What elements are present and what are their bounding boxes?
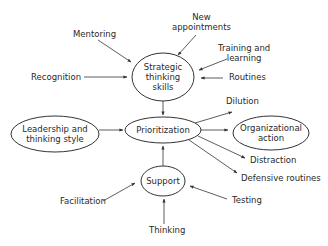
thinking-label: Thinking xyxy=(149,225,185,235)
organizational-line1: Organizational xyxy=(240,123,302,133)
prioritization-label: Prioritization xyxy=(136,125,190,135)
arrow-facilitation xyxy=(103,183,135,201)
arrow-testing xyxy=(190,186,227,199)
routines-label: Routines xyxy=(229,72,266,82)
new-appointments-line2: appointments xyxy=(172,22,231,32)
strategic-thinking-label: Strategic thinking skills xyxy=(144,62,182,92)
defensive-routines-label: Defensive routines xyxy=(241,173,321,183)
arrow-to-defensive-routines xyxy=(189,140,237,173)
testing-label: Testing xyxy=(232,195,262,205)
arrow-to-distraction xyxy=(198,136,245,158)
leadership-line1: Leadership and xyxy=(22,124,87,134)
strategic-line1: Strategic xyxy=(144,62,182,72)
training-line1: Training and xyxy=(218,43,270,53)
organizational-action-label: Organizational action xyxy=(240,123,302,143)
new-appointments-label: New appointments xyxy=(172,12,231,32)
new-appointments-line1: New xyxy=(172,12,231,22)
recognition-label: Recognition xyxy=(31,72,81,82)
training-line2: learning xyxy=(218,53,270,63)
strategic-line2: thinking xyxy=(144,72,182,82)
arrow-to-dilution xyxy=(195,112,232,123)
training-label: Training and learning xyxy=(218,43,270,63)
arrow-new-appointments xyxy=(178,35,196,55)
mentoring-label: Mentoring xyxy=(73,29,116,39)
arrow-mentoring xyxy=(98,40,131,62)
leadership-label: Leadership and thinking style xyxy=(22,124,87,144)
dilution-label: Dilution xyxy=(226,96,259,106)
organizational-line2: action xyxy=(240,133,302,143)
leadership-line2: thinking style xyxy=(22,134,87,144)
strategic-line3: skills xyxy=(144,82,182,92)
facilitation-label: Facilitation xyxy=(60,196,106,206)
support-label: Support xyxy=(146,176,180,186)
distraction-label: Distraction xyxy=(250,155,296,165)
